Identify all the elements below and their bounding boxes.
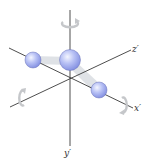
atom-left xyxy=(25,52,41,68)
atom-center xyxy=(60,50,81,71)
y-axis-label: y′ xyxy=(63,148,71,158)
molecule-rotation-diagram: x′ y′ z′ xyxy=(0,0,151,164)
rotation-arrow-y-icon xyxy=(62,18,80,27)
rotation-arrow-x-icon xyxy=(119,97,127,115)
x-axis-label: x′ xyxy=(134,103,141,113)
rotation-arrow-z-icon xyxy=(19,88,26,106)
axes xyxy=(9,10,133,146)
z-axis-label: z′ xyxy=(131,44,139,54)
atoms xyxy=(25,50,107,99)
atom-right xyxy=(91,82,107,98)
